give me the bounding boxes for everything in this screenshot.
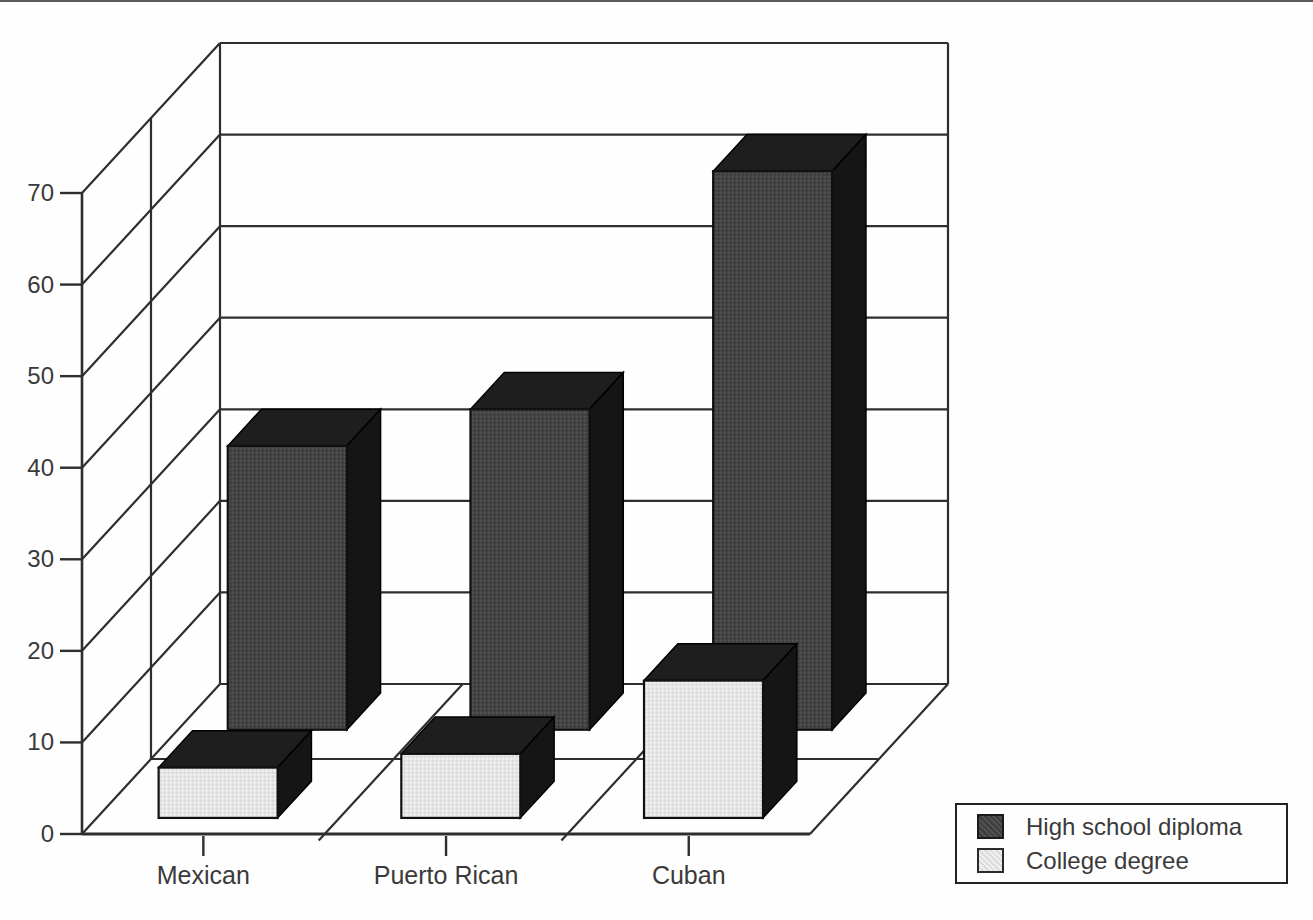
bar-side-face <box>589 373 623 730</box>
bar-side-face <box>347 409 381 730</box>
y-tick-label-0: 0 <box>41 820 54 847</box>
3d-bar-chart: 010203040506070MexicanPuerto RicanCuban <box>0 0 1313 920</box>
bar-high-school-diploma-puerto-rican <box>470 373 623 730</box>
bar-college-degree-puerto-rican <box>401 717 554 818</box>
legend-box: High school diploma College degree <box>955 803 1288 884</box>
legend-swatch-high-school-diploma <box>977 814 1004 839</box>
legend-label-high-school-diploma: High school diploma <box>1026 813 1242 841</box>
y-tick-label-40: 40 <box>27 454 54 481</box>
legend-swatch-college-degree <box>977 848 1004 873</box>
category-label-cuban: Cuban <box>652 861 726 889</box>
legend-item-high-school-diploma: High school diploma <box>977 812 1286 842</box>
legend-item-college-degree: College degree <box>977 846 1286 876</box>
bar-front-face <box>644 681 763 818</box>
bar-front-face <box>470 409 589 729</box>
bar-college-degree-mexican <box>159 731 312 818</box>
y-tick-label-20: 20 <box>27 637 54 664</box>
legend-label-college-degree: College degree <box>1026 847 1189 875</box>
bar-front-face <box>159 768 278 818</box>
category-label-mexican: Mexican <box>157 861 250 889</box>
bar-high-school-diploma-cuban <box>713 134 866 729</box>
y-tick-label-30: 30 <box>27 545 54 572</box>
bar-front-face <box>228 446 347 730</box>
chart-svg: 010203040506070MexicanPuerto RicanCuban <box>0 0 1313 920</box>
y-tick-label-50: 50 <box>27 362 54 389</box>
category-label-puerto-rican: Puerto Rican <box>374 861 519 889</box>
bar-high-school-diploma-mexican <box>228 409 381 730</box>
y-tick-label-10: 10 <box>27 728 54 755</box>
chart-page: 010203040506070MexicanPuerto RicanCuban … <box>0 0 1313 920</box>
y-tick-label-70: 70 <box>27 179 54 206</box>
bar-side-face <box>832 134 866 729</box>
bar-front-face <box>401 754 520 818</box>
y-tick-label-60: 60 <box>27 271 54 298</box>
bar-college-degree-cuban <box>644 644 797 818</box>
